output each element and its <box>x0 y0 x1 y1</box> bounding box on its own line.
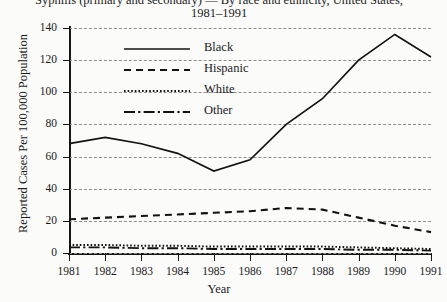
x-tick <box>69 253 70 261</box>
legend-label-black: Black <box>204 40 233 55</box>
legend-swatch-hispanic <box>122 59 192 80</box>
x-tick <box>431 253 432 261</box>
y-tick-label: 40 <box>17 183 57 194</box>
x-tick-label: 1991 <box>409 265 447 277</box>
chart-title-line2: 1981–1991 <box>0 7 438 20</box>
x-tick <box>286 253 287 261</box>
x-axis-label: Year <box>0 282 438 297</box>
legend-label-hispanic: Hispanic <box>204 61 248 76</box>
y-tick-label: 20 <box>17 215 57 226</box>
y-tick-label: 80 <box>17 118 57 129</box>
series-line-hispanic <box>69 208 431 232</box>
x-tick <box>214 253 215 261</box>
y-tick-label: 100 <box>17 86 57 97</box>
x-tick <box>250 253 251 261</box>
y-tick-label: 0 <box>17 247 57 258</box>
legend-swatch-white <box>122 80 192 101</box>
legend-swatch-black <box>122 38 192 59</box>
x-tick <box>105 253 106 261</box>
y-tick-label: 60 <box>17 151 57 162</box>
x-tick <box>395 253 396 261</box>
y-tick-label: 140 <box>17 22 57 33</box>
legend-swatch-other <box>122 101 192 122</box>
y-tick-label: 120 <box>17 54 57 65</box>
x-tick <box>359 253 360 261</box>
x-tick <box>141 253 142 261</box>
x-tick <box>322 253 323 261</box>
legend-label-other: Other <box>204 103 232 118</box>
x-tick <box>178 253 179 261</box>
series-line-other <box>69 247 431 250</box>
legend-label-white: White <box>204 82 235 97</box>
chart-title: Syphilis (primary and secondary) — By ra… <box>0 0 438 20</box>
